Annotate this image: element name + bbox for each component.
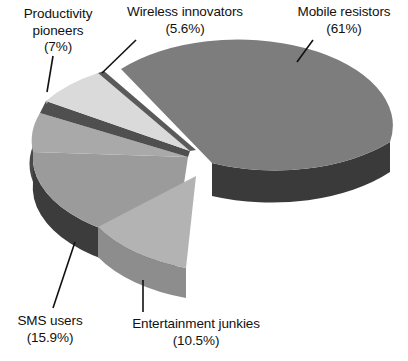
leader-line-sms-users [53,242,75,308]
label-mobile-resistors-text: Mobile resistors [298,4,391,19]
label-sms-users-value: (15.9%) [0,330,100,347]
label-productivity-pioneers: Productivity pioneers (7%) [2,6,114,56]
label-wireless-innovators: Wireless innovators (5.6%) [112,4,258,37]
label-wireless-innovators-value: (5.6%) [112,21,258,38]
label-productivity-pioneers-line2: pioneers [2,23,114,40]
label-entertainment-junkies: Entertainment junkies (10.5%) [118,316,274,349]
label-sms-users: SMS users (15.9%) [0,313,100,346]
label-wireless-innovators-text: Wireless innovators [127,4,243,19]
label-mobile-resistors: Mobile resistors (61%) [282,4,406,37]
label-mobile-resistors-value: (61%) [282,21,406,38]
pie-chart: Productivity pioneers (7%) Wireless inno… [0,0,408,361]
label-productivity-pioneers-value: (7%) [2,39,114,56]
label-entertainment-junkies-text: Entertainment junkies [132,316,260,331]
label-productivity-pioneers-line1: Productivity [24,6,93,21]
label-sms-users-text: SMS users [17,313,82,328]
leader-line-productivity-pioneers [47,56,53,92]
label-entertainment-junkies-value: (10.5%) [118,333,274,350]
